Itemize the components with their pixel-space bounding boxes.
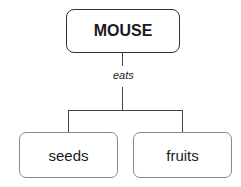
child-node-label: fruits: [166, 147, 199, 164]
connector-fruits: [182, 110, 183, 132]
child-node-fruits: fruits: [133, 132, 232, 178]
connector-root-top: [122, 53, 123, 66]
child-node-label: seeds: [48, 147, 88, 164]
connector-horizontal: [68, 110, 183, 111]
root-node-mouse: MOUSE: [66, 9, 180, 53]
root-node-label: MOUSE: [94, 22, 153, 40]
connector-root-bottom: [122, 87, 123, 110]
child-node-seeds: seeds: [19, 132, 118, 178]
connector-seeds: [68, 110, 69, 132]
relation-label: eats: [113, 69, 134, 81]
